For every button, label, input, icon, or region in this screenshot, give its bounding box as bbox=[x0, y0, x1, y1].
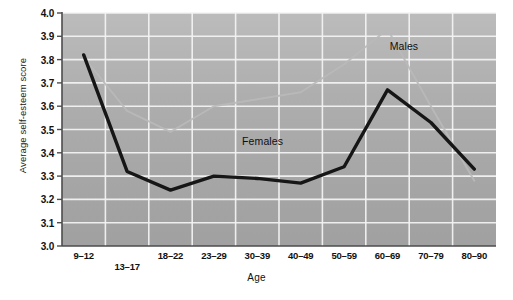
x-tick-label: 30–39 bbox=[245, 250, 270, 261]
x-tick-label: 23–29 bbox=[201, 250, 226, 261]
series-label-females: Females bbox=[242, 135, 283, 147]
x-axis-title: Age bbox=[0, 272, 513, 283]
x-tick-label: 80–90 bbox=[462, 250, 487, 261]
chart-figure: Average self-esteem score 3.03.13.23.33.… bbox=[0, 0, 513, 300]
x-tick-label: 13–17 bbox=[114, 261, 139, 272]
x-tick-label: 60–69 bbox=[375, 250, 400, 261]
x-tick-label: 50–59 bbox=[331, 250, 356, 261]
x-tick-label: 70–79 bbox=[418, 250, 443, 261]
series-label-males: Males bbox=[390, 40, 419, 52]
x-tick-label: 40–49 bbox=[288, 250, 313, 261]
x-tick-label: 18–22 bbox=[158, 250, 183, 261]
x-tick-label: 9–12 bbox=[74, 250, 94, 261]
